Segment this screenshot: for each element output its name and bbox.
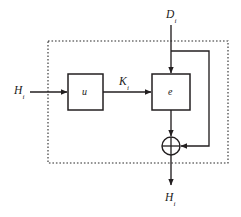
label-d-input: Di — [166, 9, 176, 23]
label-k: Ki — [119, 76, 129, 90]
block-diagram: Hi Ki Di Hi u e — [0, 0, 241, 217]
label-block-e: e — [168, 87, 172, 97]
diagram-canvas — [0, 0, 241, 217]
label-h-output: Hi — [165, 192, 175, 206]
label-h-input: Hi — [14, 85, 24, 99]
label-block-u: u — [82, 87, 87, 97]
